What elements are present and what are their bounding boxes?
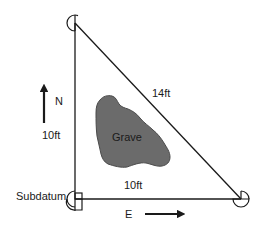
east-label: E xyxy=(125,209,132,220)
north-label: N xyxy=(55,96,63,107)
subdatum-label: Subdatum xyxy=(16,191,66,202)
bottom-right-datum-marker xyxy=(233,191,249,207)
subdatum-marker xyxy=(66,191,82,211)
grave-label: Grave xyxy=(112,132,142,143)
bottom-side-length-label: 10ft xyxy=(124,180,142,191)
top-left-datum-marker xyxy=(67,15,78,31)
grave-site-diagram: N 10ft 14ft Grave 10ft Subdatum E xyxy=(0,0,268,232)
hypotenuse-length-label: 14ft xyxy=(152,88,170,99)
north-side-length-label: 10ft xyxy=(42,130,60,141)
